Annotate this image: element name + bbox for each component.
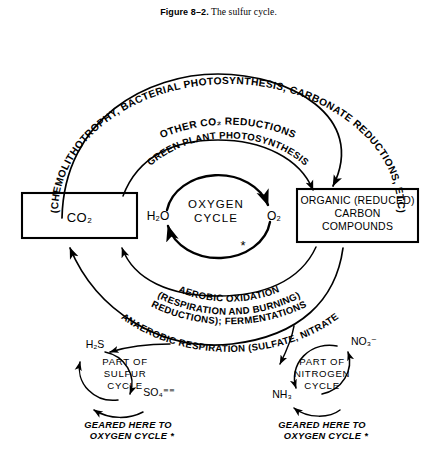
no3-species-label: NO₃⁻ [351, 335, 377, 347]
nitrogen-cycle-line1: PART OF [299, 356, 344, 367]
sulfur-cycle-diagram: (CHEMOLITHOTROPHY, BACTERIAL PHOTOSYNTHE… [0, 0, 437, 460]
organic-carbon-line2: CARBON [334, 207, 380, 219]
sulfur-branch-arrow [110, 344, 170, 352]
nitrogen-geared-line2: OXYGEN CYCLE * [284, 431, 368, 441]
sulfur-geared-line1: GEARED HERE TO [84, 420, 172, 430]
organic-carbon-line3: COMPOUNDS [322, 220, 393, 232]
so4-species-label: SO₄⁼⁼ [143, 386, 174, 398]
nitrogen-geared-line1: GEARED HERE TO [278, 420, 366, 430]
nh3-species-label: NH₃ [272, 388, 291, 400]
nitrogen-cycle-group: PART OF NITROGEN CYCLE NO₃⁻ NH₃ GEARED H… [272, 335, 377, 441]
h2o-species-label: H₂O [147, 209, 170, 223]
organic-carbon-line1: ORGANIC (REDUCED) [300, 194, 414, 206]
organic-carbon-box: ORGANIC (REDUCED) CARBON COMPOUNDS [297, 189, 418, 242]
oxygen-cycle-line1: OXYGEN [188, 198, 244, 210]
co2-box: CO₂ [22, 193, 137, 238]
inner-bottom-arc-label-line1: AEROBIC OXIDATION [177, 283, 281, 303]
sulfur-cycle-line3: CYCLE [107, 380, 143, 391]
inner-top-arc-group: GREEN PLANT PHOTOSYNTHESIS [123, 129, 313, 196]
co2-box-label: CO₂ [67, 210, 93, 225]
sulfur-cycle-line1: PART OF [102, 356, 147, 367]
inner-bottom-arc-path [122, 247, 316, 296]
sulfur-cycle-line2: SULFUR [104, 368, 147, 379]
oxygen-cycle-bottom-arc [168, 222, 270, 258]
oxygen-cycle-asterisk: * [240, 238, 245, 253]
oxygen-cycle-group: OXYGEN CYCLE H₂O O₂ * [147, 175, 282, 258]
sulfur-cycle-group: PART OF SULFUR CYCLE H₂S SO₄⁼⁼ GEARED HE… [79, 338, 174, 441]
h2s-species-label: H₂S [86, 338, 105, 350]
nitrogen-cycle-line3: CYCLE [304, 380, 340, 391]
nitrogen-geared-arrow [294, 408, 340, 416]
figure-canvas: Figure 8–2. The sulfur cycle. (CHEMOLITH… [0, 0, 437, 460]
nitrogen-cycle-line2: NITROGEN [294, 368, 350, 379]
oxygen-cycle-line2: CYCLE [194, 212, 238, 224]
sulfur-geared-line2: OXYGEN CYCLE * [90, 431, 174, 441]
sulfur-geared-arrow [94, 410, 143, 417]
o2-species-label: O₂ [267, 209, 281, 223]
